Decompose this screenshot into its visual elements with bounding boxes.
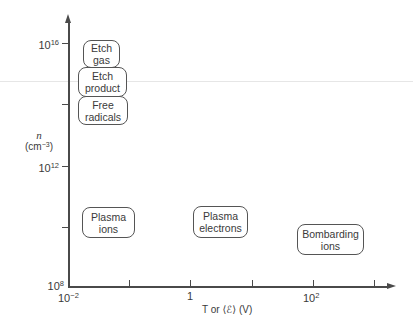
y-label-1e12: 1012 bbox=[19, 160, 59, 174]
region-free-radicals: Free radicals bbox=[78, 96, 128, 125]
y-axis bbox=[68, 20, 70, 288]
region-label-line2: product bbox=[79, 82, 126, 94]
region-label-line1: Bombarding bbox=[298, 228, 363, 240]
region-label-line2: ions bbox=[298, 240, 363, 252]
x-tick-100 bbox=[313, 280, 314, 287]
y-tick-1e14 bbox=[62, 104, 69, 105]
x-label-1: 1 bbox=[187, 290, 193, 302]
region-label-line2: radicals bbox=[79, 111, 127, 123]
y-label-1e16: 1016 bbox=[19, 37, 59, 51]
y-axis-arrow-icon bbox=[65, 14, 71, 23]
region-etch-product: Etch product bbox=[78, 67, 127, 97]
x-tick-1000 bbox=[374, 280, 375, 287]
region-label-line1: Free bbox=[79, 99, 127, 111]
region-plasma-electrons: Plasma electrons bbox=[193, 206, 248, 238]
y-tick-1e10 bbox=[62, 227, 69, 228]
x-tick-1 bbox=[190, 280, 191, 287]
y-axis-variable: n bbox=[22, 130, 56, 140]
x-tick-1e-1 bbox=[129, 280, 130, 287]
region-label-line2: ions bbox=[83, 223, 134, 235]
x-axis bbox=[68, 286, 390, 288]
x-label-1e-2: 10−2 bbox=[58, 290, 79, 304]
region-label-line1: Plasma bbox=[83, 211, 134, 223]
x-tick-10 bbox=[252, 280, 253, 287]
y-tick-1e12 bbox=[62, 166, 69, 167]
region-label-line1: Etch bbox=[79, 70, 126, 82]
scan-artifact-line bbox=[0, 81, 413, 82]
region-label-line2: electrons bbox=[194, 222, 247, 234]
x-axis-arrow-icon bbox=[387, 283, 396, 289]
x-axis-title: T or ⟨ℰ⟩ (V) bbox=[202, 304, 252, 316]
y-axis-title: n (cm−3) bbox=[22, 130, 56, 152]
y-tick-1e16 bbox=[62, 43, 69, 44]
y-axis-unit: (cm−3) bbox=[22, 140, 56, 152]
region-label-line1: Plasma bbox=[194, 210, 247, 222]
region-label-line2: gas bbox=[84, 54, 119, 66]
region-bombarding-ions: Bombarding ions bbox=[297, 224, 364, 255]
region-etch-gas: Etch gas bbox=[83, 40, 120, 68]
region-label-line1: Etch bbox=[84, 42, 119, 54]
x-label-1e2: 102 bbox=[303, 290, 319, 304]
region-plasma-ions: Plasma ions bbox=[82, 207, 135, 238]
